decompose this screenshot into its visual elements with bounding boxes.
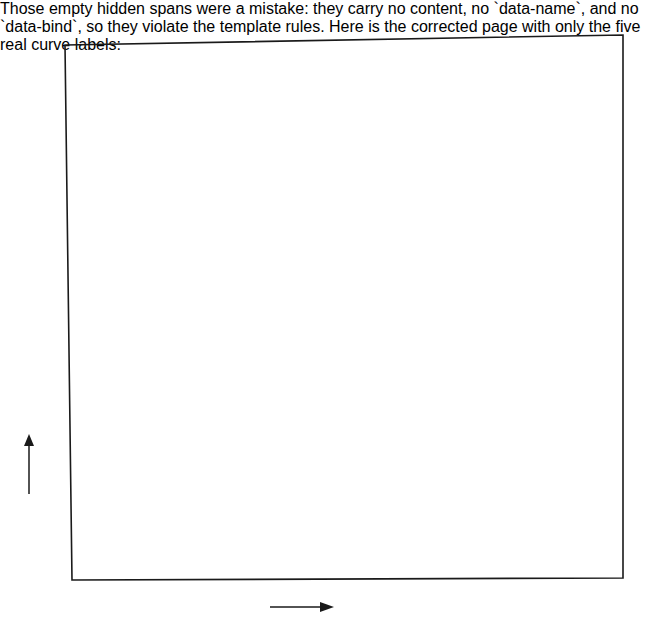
x-axis-label: [262, 600, 334, 614]
arrow-right-icon: [270, 600, 334, 614]
y-axis-label: [22, 434, 36, 500]
arrow-right-icon: [22, 434, 36, 494]
plot-frame: [65, 35, 623, 580]
chart-canvas: [0, 0, 653, 644]
